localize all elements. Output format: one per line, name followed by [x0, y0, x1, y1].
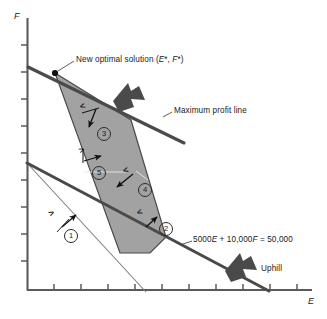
y-axis-label: F [14, 12, 20, 21]
x-axis-label: E [308, 297, 314, 306]
leader-profit-line [163, 112, 172, 117]
constraint-badge-2: 2 [159, 222, 173, 236]
uphill-arrow-profit [113, 83, 145, 112]
leader-budget-equation [180, 241, 192, 245]
budget-eq-coef-f: + 10,000 [217, 235, 252, 244]
budget-equation-label: 5000E + 10,000F = 50,000 [193, 236, 293, 244]
constraint-badge-1: 1 [64, 229, 78, 243]
optimal-solution-point [52, 70, 58, 76]
constraint-badge-3: 3 [97, 127, 111, 141]
y-axis-ticks [21, 45, 27, 261]
optimal-solution-prefix: New optimal solution ( [76, 55, 159, 64]
lp-graph-figure: New optimal solution (E*, F*) Maximum pr… [0, 0, 327, 319]
budget-eq-rhs: = 50,000 [258, 235, 293, 244]
uphill-label: Uphill [261, 265, 282, 273]
maximum-profit-line-label: Maximum profit line [174, 107, 247, 115]
budget-eq-coef-e: 5000 [193, 235, 212, 244]
leader-optimal-solution [58, 61, 74, 71]
uphill-arrow-budget [225, 253, 257, 282]
constraint-badge-5: 5 [92, 166, 106, 180]
constraint-badge-4: 4 [138, 183, 152, 197]
optimal-solution-label: New optimal solution (E*, F*) [76, 56, 184, 64]
arrow-constraint-1 [62, 215, 76, 227]
optimal-solution-suffix: ) [181, 55, 184, 64]
